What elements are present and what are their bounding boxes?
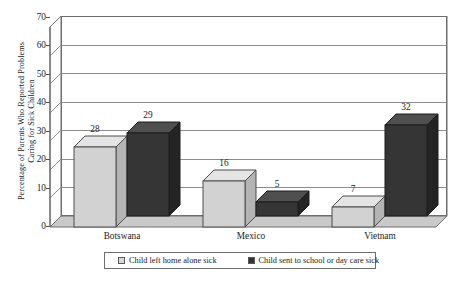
bar-vietnam-left-home-alone[interactable] [332, 196, 385, 227]
bar-botswana-left-home-alone[interactable] [74, 136, 127, 227]
light-swatch-icon [118, 257, 125, 264]
x-axis-label-botswana: Botswana [62, 231, 182, 242]
bar-chart: Percentage of Parents Who Reported Probl… [0, 0, 464, 283]
data-label-botswana-series1: 29 [133, 111, 163, 120]
chart-legend: Child left home alone sick Child sent to… [104, 252, 376, 269]
bar-vietnam-school-daycare[interactable] [385, 114, 438, 216]
data-label-mexico-series1: 5 [262, 180, 292, 189]
data-label-botswana-series0: 28 [80, 125, 110, 134]
x-axis-label-vietnam: Vietnam [320, 231, 440, 242]
data-label-vietnam-series0: 7 [338, 185, 368, 194]
legend-label-school-daycare: Child sent to school or day care sick [259, 256, 380, 265]
data-label-mexico-series0: 16 [209, 159, 239, 168]
bar-botswana-school-daycare[interactable] [127, 122, 180, 216]
x-axis-label-mexico: Mexico [191, 231, 311, 242]
plot-area: 28 29 16 5 7 32 Botswana Mexico Vietnam [0, 0, 464, 283]
bar-mexico-school-daycare[interactable] [256, 191, 309, 216]
legend-label-left-home-alone: Child left home alone sick [129, 256, 217, 265]
legend-item-school-daycare[interactable]: Child sent to school or day care sick [248, 256, 380, 265]
dark-swatch-icon [248, 257, 255, 264]
legend-item-left-home-alone[interactable]: Child left home alone sick [118, 256, 217, 265]
data-label-vietnam-series1: 32 [391, 103, 421, 112]
bar-mexico-left-home-alone[interactable] [203, 170, 256, 227]
